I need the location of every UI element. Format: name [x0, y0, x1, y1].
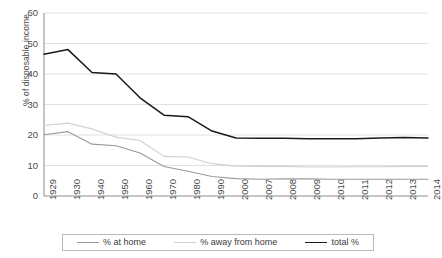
legend-item-at-home: % at home [77, 238, 146, 247]
legend-label-away-from-home: % away from home [200, 238, 277, 247]
legend-swatch-away-from-home [174, 242, 196, 243]
legend-swatch-total [305, 242, 327, 243]
legend-swatch-at-home [77, 242, 99, 243]
chart-legend: % at home % away from home total % [62, 234, 374, 251]
legend-item-away-from-home: % away from home [174, 238, 277, 247]
legend-item-total: total % [305, 238, 359, 247]
legend-label-at-home: % at home [103, 238, 146, 247]
legend-label-total: total % [331, 238, 359, 247]
